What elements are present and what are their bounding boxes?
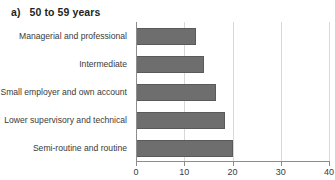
figure-panel: a) 50 to 59 years Managerial and profess… — [0, 0, 335, 180]
page-title: a) 50 to 59 years — [11, 6, 100, 18]
x-tick-label-0: 0 — [133, 167, 138, 177]
bar-5[interactable] — [136, 140, 233, 157]
x-tick-0 — [136, 162, 137, 166]
gridline-30 — [281, 22, 282, 162]
x-tick-label-10: 10 — [179, 167, 189, 177]
x-tick-30 — [281, 162, 282, 166]
category-label-4: Lower supervisory and technical — [4, 106, 127, 134]
bar-1[interactable] — [136, 28, 196, 45]
category-axis: Managerial and professionalIntermediateS… — [0, 22, 131, 162]
gridline-20 — [233, 22, 234, 162]
x-tick-20 — [233, 162, 234, 166]
x-axis-line — [136, 161, 330, 162]
gridline-40 — [329, 22, 330, 162]
bar-4[interactable] — [136, 112, 225, 129]
bar-row — [136, 134, 233, 162]
bar-row — [136, 78, 216, 106]
bar-row — [136, 22, 196, 50]
x-tick-label-20: 20 — [227, 167, 237, 177]
bar-2[interactable] — [136, 56, 204, 73]
bar-row — [136, 106, 225, 134]
plot-area: 010203040 — [136, 22, 329, 162]
panel-title-text: 50 to 59 years — [30, 6, 101, 18]
x-tick-label-30: 30 — [276, 167, 286, 177]
bar-row — [136, 50, 204, 78]
x-tick-40 — [329, 162, 330, 166]
x-tick-10 — [184, 162, 185, 166]
y-axis-line — [136, 22, 137, 162]
bar-3[interactable] — [136, 84, 216, 101]
category-label-2: Intermediate — [79, 50, 127, 78]
panel-label: a) — [11, 6, 21, 18]
x-tick-label-40: 40 — [324, 167, 334, 177]
category-label-3: Small employer and own account — [0, 78, 127, 106]
category-label-1: Managerial and professional — [19, 22, 127, 50]
category-label-5: Semi-routine and routine — [33, 134, 127, 162]
